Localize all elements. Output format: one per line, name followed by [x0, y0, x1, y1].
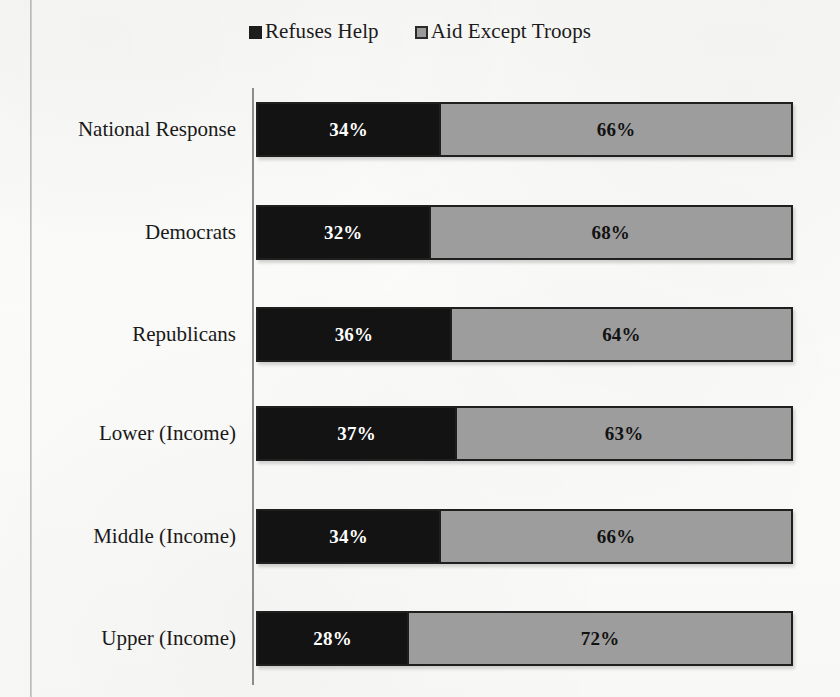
- bar-value-label: 34%: [329, 526, 368, 548]
- category-label-lower-income: Lower (Income): [0, 406, 236, 461]
- legend-label-aid-except-troops: Aid Except Troops: [431, 19, 591, 44]
- bar-row: 34%66%: [256, 509, 793, 564]
- bar-segment-refuses-help: 28%: [258, 613, 407, 664]
- bar-value-label: 68%: [591, 222, 630, 244]
- bar-value-label: 66%: [597, 526, 636, 548]
- bar-row: 36%64%: [256, 307, 793, 362]
- bar-segment-aid-except-troops: 68%: [429, 207, 791, 258]
- bar-segment-refuses-help: 34%: [258, 511, 439, 562]
- chart-legend: Refuses Help Aid Except Troops: [0, 16, 840, 46]
- bar-segment-refuses-help: 32%: [258, 207, 429, 258]
- legend-item-aid-except-troops: Aid Except Troops: [415, 19, 591, 44]
- bar-group: 34%66%32%68%36%64%37%63%34%66%28%72%: [256, 88, 793, 685]
- bar-value-label: 37%: [337, 423, 376, 445]
- bar-value-label: 28%: [313, 628, 352, 650]
- bar-segment-refuses-help: 36%: [258, 309, 450, 360]
- bar-row: 34%66%: [256, 102, 793, 157]
- bar-value-label: 72%: [581, 628, 620, 650]
- bar-row: 32%68%: [256, 205, 793, 260]
- bar-segment-refuses-help: 37%: [258, 408, 455, 459]
- bar-value-label: 32%: [324, 222, 363, 244]
- vertical-axis-line: [252, 88, 254, 685]
- bar-value-label: 66%: [597, 119, 636, 141]
- bar-segment-aid-except-troops: 63%: [455, 408, 791, 459]
- bar-segment-refuses-help: 34%: [258, 104, 439, 155]
- category-label-national-response: National Response: [0, 102, 236, 157]
- category-label-republicans: Republicans: [0, 307, 236, 362]
- bar-row: 37%63%: [256, 406, 793, 461]
- bar-segment-aid-except-troops: 72%: [407, 613, 791, 664]
- bar-row: 28%72%: [256, 611, 793, 666]
- category-label-middle-income: Middle (Income): [0, 509, 236, 564]
- bar-segment-aid-except-troops: 64%: [450, 309, 791, 360]
- dark-square-icon: [249, 26, 262, 39]
- category-axis-labels: National ResponseDemocratsRepublicansLow…: [0, 88, 236, 685]
- legend-label-refuses-help: Refuses Help: [265, 19, 379, 44]
- gray-square-icon: [415, 26, 428, 39]
- bar-segment-aid-except-troops: 66%: [439, 511, 791, 562]
- plot-area: 34%66%32%68%36%64%37%63%34%66%28%72%: [252, 88, 793, 685]
- category-label-democrats: Democrats: [0, 205, 236, 260]
- bar-value-label: 36%: [335, 324, 374, 346]
- legend-item-refuses-help: Refuses Help: [249, 19, 379, 44]
- bar-segment-aid-except-troops: 66%: [439, 104, 791, 155]
- bar-value-label: 34%: [329, 119, 368, 141]
- bar-value-label: 63%: [605, 423, 644, 445]
- category-label-upper-income: Upper (Income): [0, 611, 236, 666]
- bar-value-label: 64%: [602, 324, 641, 346]
